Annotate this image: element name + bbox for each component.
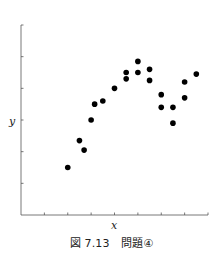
data-point	[135, 59, 141, 65]
data-point	[100, 98, 106, 104]
data-point	[123, 76, 129, 82]
data-point	[81, 147, 87, 153]
data-point	[147, 67, 153, 73]
data-point	[182, 95, 188, 101]
data-point	[135, 70, 141, 76]
data-points	[65, 59, 199, 171]
data-point	[92, 101, 98, 107]
data-point	[88, 117, 94, 123]
x-axis-label: x	[111, 219, 118, 232]
data-point	[158, 92, 164, 98]
data-point	[158, 105, 164, 111]
data-point	[182, 79, 188, 85]
data-point	[170, 120, 176, 126]
data-point	[123, 70, 129, 76]
scatter-plot: x y	[0, 0, 223, 261]
data-point	[65, 165, 71, 171]
data-point	[77, 138, 83, 144]
figure-caption: 図 7.13 問題④	[0, 234, 223, 250]
y-axis-label: y	[8, 115, 16, 128]
data-point	[112, 86, 118, 92]
axes	[21, 25, 208, 215]
data-point	[147, 78, 153, 84]
data-point	[170, 105, 176, 111]
data-point	[194, 71, 200, 77]
